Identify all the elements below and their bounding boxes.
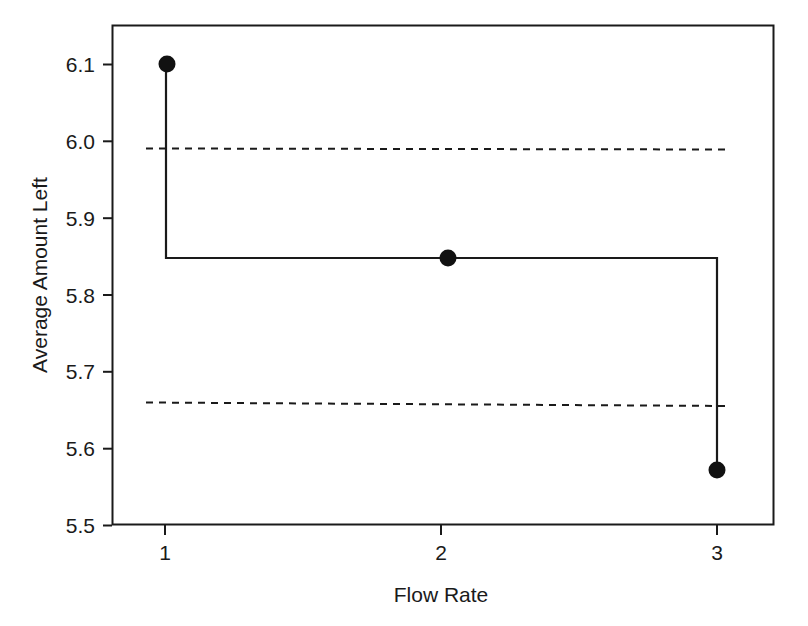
x-tick-label-1: 1: [159, 541, 171, 564]
y-tick-label-5.7: 5.7: [66, 360, 95, 383]
y-tick-label-6.0: 6.0: [66, 130, 95, 153]
y-tick-label-6.1: 6.1: [66, 53, 95, 76]
y-tick-label-5.5: 5.5: [66, 514, 95, 537]
data-point-marker-1: [159, 56, 176, 73]
x-axis-title: Flow Rate: [394, 583, 489, 606]
data-point-marker-2: [440, 250, 457, 267]
x-axis-ticks: [165, 525, 717, 536]
y-tick-label-5.8: 5.8: [66, 284, 95, 307]
x-tick-label-2: 2: [435, 541, 447, 564]
main-plot-svg: 6.1 6.0 5.9 5.8 5.7 5.6 5.5 1 2 3 Flow R…: [0, 0, 808, 626]
x-tick-label-3: 3: [711, 541, 723, 564]
data-point-marker-3: [709, 462, 726, 479]
y-tick-label-5.9: 5.9: [66, 207, 95, 230]
y-axis-ticks: [103, 65, 112, 526]
y-axis-title: Average Amount Left: [28, 177, 51, 373]
y-tick-label-5.6: 5.6: [66, 437, 95, 460]
plot-frame-box: [113, 26, 774, 525]
chart-figure: 6.1 6.0 5.9 5.8 5.7 5.6 5.5 1 2 3 Flow R…: [0, 0, 808, 626]
